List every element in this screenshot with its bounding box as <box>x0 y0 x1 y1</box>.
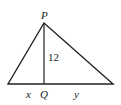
label-altitude: 12 <box>48 51 59 63</box>
label-x: x <box>25 88 31 100</box>
triangle-diagram: P 12 x Q y <box>0 0 121 105</box>
label-y: y <box>73 88 79 100</box>
label-q: Q <box>40 88 48 100</box>
label-p: P <box>40 9 48 21</box>
triangle <box>8 23 113 84</box>
